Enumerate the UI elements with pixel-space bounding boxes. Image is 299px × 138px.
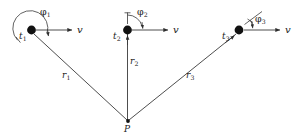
label-velocity-v1: v bbox=[77, 25, 83, 35]
source-dot-t1 bbox=[27, 26, 36, 35]
radius-line-r1 bbox=[34, 34, 127, 120]
label-radius-r1: r1 bbox=[62, 71, 70, 80]
label-angle-phi1: φ1 bbox=[40, 7, 51, 17]
source-dot-t3 bbox=[235, 26, 244, 35]
label-t3: t3 bbox=[222, 32, 230, 41]
radius-line-r3 bbox=[129, 34, 236, 120]
source-dot-t2 bbox=[123, 26, 132, 35]
label-radius-r2: r2 bbox=[130, 57, 138, 66]
label-angle-phi2: φ2 bbox=[137, 7, 148, 17]
physics-diagram: t1 t2 t3 v v v φ1 φ2 φ3 r1 r2 r3 P bbox=[0, 0, 299, 138]
label-radius-r3: r3 bbox=[186, 71, 194, 80]
angle-arc-phi1-head bbox=[48, 30, 49, 37]
label-t1: t1 bbox=[19, 32, 27, 41]
label-velocity-v2: v bbox=[173, 25, 179, 35]
angle-arc-phi2-head bbox=[142, 22, 143, 29]
label-angle-phi3: φ3 bbox=[255, 14, 266, 24]
label-velocity-v3: v bbox=[285, 25, 291, 35]
label-observation-point-p: P bbox=[124, 125, 130, 134]
observation-point-dot-p bbox=[126, 119, 130, 123]
label-t2: t2 bbox=[113, 32, 121, 41]
